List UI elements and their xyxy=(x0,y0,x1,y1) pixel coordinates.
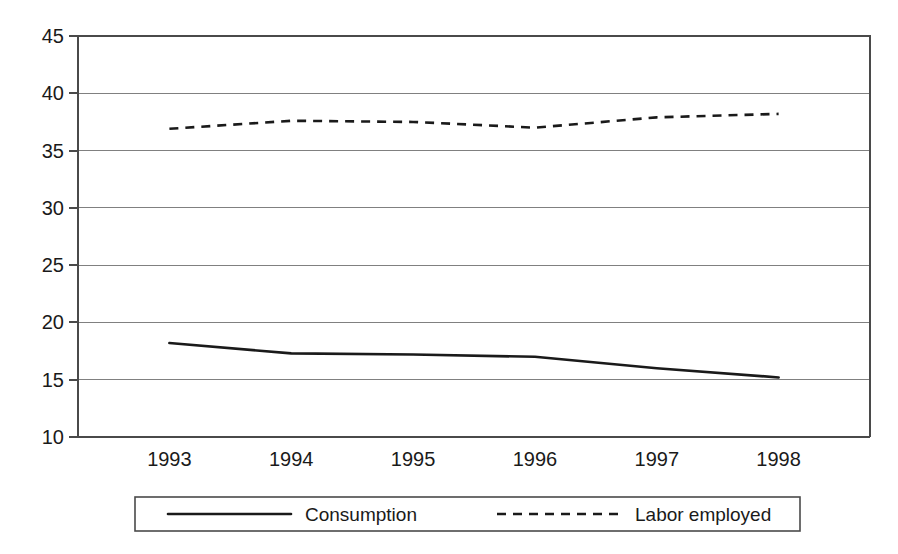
y-tick-label: 30 xyxy=(42,197,64,219)
chart-canvas: 1015202530354045 19931994199519961997199… xyxy=(0,0,898,554)
y-tick-label: 25 xyxy=(42,254,64,276)
x-tick-label: 1996 xyxy=(513,448,558,470)
x-tick-label: 1995 xyxy=(391,448,436,470)
x-tick-label: 1994 xyxy=(269,448,314,470)
chart-background xyxy=(0,0,898,554)
legend-label-labor-employed: Labor employed xyxy=(635,504,771,525)
y-tick-label: 35 xyxy=(42,140,64,162)
x-tick-label: 1993 xyxy=(147,448,192,470)
x-tick-label: 1998 xyxy=(756,448,801,470)
y-tick-label: 45 xyxy=(42,25,64,47)
x-tick-label: 1997 xyxy=(635,448,680,470)
y-tick-label: 40 xyxy=(42,82,64,104)
y-tick-label: 15 xyxy=(42,369,64,391)
line-chart: 1015202530354045 19931994199519961997199… xyxy=(0,0,898,554)
legend-label-consumption: Consumption xyxy=(305,504,417,525)
y-tick-label: 10 xyxy=(42,426,64,448)
y-tick-label: 20 xyxy=(42,311,64,333)
